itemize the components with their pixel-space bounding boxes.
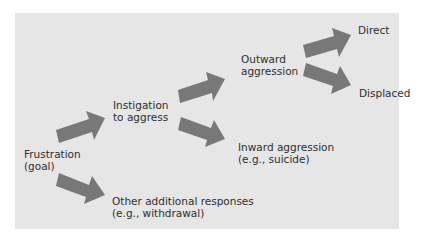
node-frustration: Frustration (goal) [24, 148, 81, 172]
arrow-frustration-to-other [56, 173, 105, 204]
node-instigation-line2: to aggress [113, 111, 168, 123]
node-outward-line2: aggression [241, 65, 298, 77]
node-inward-line2: (e.g., suicide) [238, 153, 334, 165]
node-instigation: Instigation to aggress [113, 99, 168, 123]
node-other-line2: (e.g., withdrawal) [112, 207, 254, 219]
arrow-outward-to-displaced [303, 63, 351, 94]
node-displaced-label: Displaced [359, 87, 410, 99]
node-outward-aggression: Outward aggression [241, 53, 298, 77]
node-direct: Direct [358, 24, 389, 36]
node-displaced: Displaced [359, 87, 410, 99]
node-outward-line1: Outward [241, 53, 298, 65]
arrow-instigation-to-outward [178, 72, 225, 103]
node-other-responses: Other additional responses (e.g., withdr… [112, 195, 254, 219]
arrow-instigation-to-inward [178, 117, 225, 147]
node-direct-label: Direct [358, 24, 389, 36]
arrow-outward-to-direct [303, 28, 351, 58]
node-other-line1: Other additional responses [112, 195, 254, 207]
node-frustration-line1: Frustration [24, 148, 81, 160]
node-instigation-line1: Instigation [113, 99, 168, 111]
node-inward-line1: Inward aggression [238, 141, 334, 153]
node-frustration-line2: (goal) [24, 160, 81, 172]
arrow-frustration-to-instigation [56, 111, 105, 143]
node-inward-aggression: Inward aggression (e.g., suicide) [238, 141, 334, 165]
